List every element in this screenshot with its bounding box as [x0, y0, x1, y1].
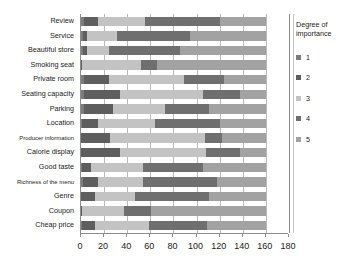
legend-label: 1 — [306, 53, 310, 62]
bar-segment — [190, 31, 266, 40]
bar-segment — [155, 119, 220, 128]
bar-segment — [209, 192, 266, 201]
category-axis-labels: ReviewServiceBeautiful storeSmoking seat… — [0, 14, 78, 233]
bar-segment — [81, 133, 110, 142]
category-label: Cheap price — [0, 218, 78, 233]
stacked-bar — [81, 206, 289, 215]
stacked-bar — [81, 163, 289, 172]
bar-row — [81, 58, 289, 73]
bar-segment — [82, 60, 141, 69]
bar-segment — [120, 90, 203, 99]
axis-tick — [265, 234, 266, 237]
bar-segment — [207, 221, 266, 230]
axis-tick — [196, 234, 197, 237]
legend: Degree of importance 12345 — [296, 20, 359, 150]
bar-segment — [205, 133, 222, 142]
x-axis-ticks — [80, 234, 288, 238]
category-label: Beautiful store — [0, 43, 78, 58]
bar-segment — [143, 163, 203, 172]
stacked-bar — [81, 104, 289, 113]
stacked-bar — [81, 133, 289, 142]
stacked-bar — [81, 75, 289, 84]
axis-tick — [172, 234, 173, 237]
bar-segment — [222, 133, 266, 142]
axis-tick — [219, 234, 220, 237]
axis-tick — [149, 234, 150, 237]
bar-segment — [82, 206, 124, 215]
legend-item[interactable]: 2 — [296, 68, 359, 89]
bar-segment — [206, 148, 241, 157]
stacked-bar — [81, 90, 289, 99]
category-label: Coupon — [0, 204, 78, 219]
legend-item[interactable]: 4 — [296, 109, 359, 130]
bar-segment — [87, 46, 109, 55]
bar-segment — [82, 221, 95, 230]
bar-segment — [151, 206, 265, 215]
bar-segment — [165, 104, 209, 113]
bar-row — [81, 29, 289, 44]
bar-segment — [120, 148, 206, 157]
category-label: Private room — [0, 72, 78, 87]
legend-swatch-icon — [296, 55, 301, 60]
category-label: Seating capacity — [0, 87, 78, 102]
bar-segment — [95, 221, 149, 230]
category-label: Calorie display — [0, 145, 78, 160]
bar-segment — [82, 163, 91, 172]
bar-segment — [113, 104, 165, 113]
bar-segment — [184, 75, 224, 84]
legend-item[interactable]: 5 — [296, 129, 359, 150]
legend-items: 12345 — [296, 47, 359, 150]
axis-tick-label: 180 — [273, 239, 303, 253]
stacked-bar — [81, 221, 289, 230]
axis-tick — [126, 234, 127, 237]
category-label: Genre — [0, 189, 78, 204]
bar-segment — [217, 177, 266, 186]
bar-row — [81, 204, 289, 219]
legend-divider — [293, 14, 294, 233]
bar-segment — [143, 177, 217, 186]
bar-row — [81, 131, 289, 146]
category-label: Service — [0, 29, 78, 44]
bar-segment — [98, 17, 144, 26]
bar-segment — [203, 163, 265, 172]
bar-segment — [203, 90, 240, 99]
bar-row — [81, 175, 289, 190]
bar-segment — [84, 104, 113, 113]
bar-segment — [83, 177, 98, 186]
bar-segment — [98, 119, 155, 128]
bar-segment — [81, 148, 120, 157]
bar-segment — [84, 17, 98, 26]
stacked-bar — [81, 177, 289, 186]
bar-segment — [220, 17, 266, 26]
bar-segment — [157, 60, 266, 69]
legend-swatch-icon — [296, 96, 301, 101]
bar-segment — [145, 17, 220, 26]
bar-row — [81, 43, 289, 58]
bar-segment — [98, 177, 143, 186]
category-label: Producer information — [0, 131, 78, 146]
stacked-bar — [81, 46, 289, 55]
bar-segment — [81, 192, 95, 201]
bar-segment — [124, 206, 152, 215]
axis-tick — [103, 234, 104, 237]
bar-segment — [87, 31, 117, 40]
bar-segment — [220, 119, 266, 128]
bar-segment — [149, 221, 207, 230]
bar-segment — [180, 46, 266, 55]
category-label: Parking — [0, 102, 78, 117]
bar-row — [81, 14, 289, 29]
axis-tick — [288, 234, 289, 237]
bar-row — [81, 116, 289, 131]
legend-item[interactable]: 1 — [296, 47, 359, 68]
bar-row — [81, 218, 289, 233]
stacked-bar — [81, 148, 289, 157]
bar-row — [81, 145, 289, 160]
bar-segment — [209, 104, 266, 113]
legend-label: 5 — [306, 135, 310, 144]
bar-segment — [117, 31, 190, 40]
bar-segment — [109, 46, 181, 55]
legend-item[interactable]: 3 — [296, 88, 359, 109]
stacked-bar — [81, 31, 289, 40]
bar-segment — [95, 192, 135, 201]
legend-swatch-icon — [296, 75, 301, 80]
